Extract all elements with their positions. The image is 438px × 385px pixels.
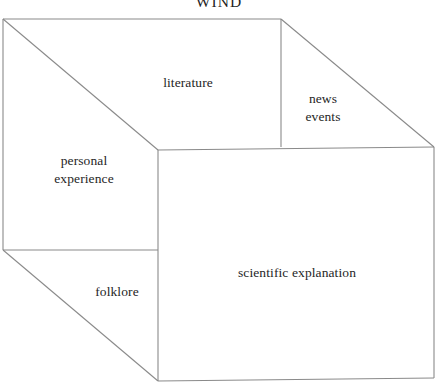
wind-box-diagram: WIND literature news events personal exp… [0, 0, 438, 385]
front-face [158, 147, 434, 381]
box-outline-svg [0, 0, 438, 385]
